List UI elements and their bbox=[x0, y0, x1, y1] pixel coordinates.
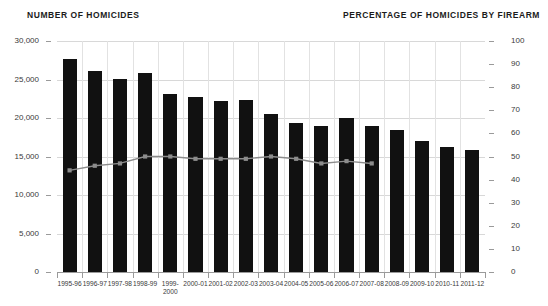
x-axis-label: 1995-96 bbox=[57, 280, 82, 288]
x-axis-tick bbox=[460, 272, 461, 278]
bar bbox=[390, 130, 404, 272]
bar bbox=[365, 126, 379, 272]
y-axis-right-tick bbox=[489, 272, 494, 273]
category-separator bbox=[183, 41, 184, 272]
bar bbox=[113, 79, 127, 272]
x-axis-label: 2011-12 bbox=[460, 280, 485, 288]
bar bbox=[163, 94, 177, 272]
y-axis-left-tick bbox=[46, 272, 51, 273]
category-separator bbox=[133, 41, 134, 272]
y-axis-right-tick-label: 30 bbox=[511, 199, 520, 207]
x-axis-tick bbox=[485, 272, 486, 278]
x-axis-tick bbox=[233, 272, 234, 278]
y-axis-right-tick bbox=[489, 87, 494, 88]
category-separator bbox=[309, 41, 310, 272]
category-separator bbox=[384, 41, 385, 272]
x-axis-tick bbox=[309, 272, 310, 278]
y-axis-right-tick-label: 0 bbox=[511, 268, 515, 276]
x-axis-label: 2005-06 bbox=[309, 280, 334, 288]
y-axis-left-tick bbox=[46, 80, 51, 81]
left-axis-title: NUMBER OF HOMICIDES bbox=[27, 10, 139, 20]
x-axis-tick bbox=[183, 272, 184, 278]
x-axis-label: 1997-98 bbox=[107, 280, 132, 288]
x-axis: 1995-961996-971997-981998-991999- 200020… bbox=[57, 272, 485, 306]
x-axis-label: 2002-03 bbox=[233, 280, 258, 288]
y-axis-left-tick bbox=[46, 41, 51, 42]
y-axis-left-tick bbox=[46, 195, 51, 196]
x-axis-tick bbox=[82, 272, 83, 278]
y-axis-right-tick bbox=[489, 110, 494, 111]
bar bbox=[314, 126, 328, 272]
bar bbox=[440, 147, 454, 273]
bar bbox=[214, 101, 228, 272]
bar bbox=[415, 141, 429, 272]
y-axis-left-tick-label: 25,000 bbox=[15, 76, 39, 84]
y-axis-left: 05,00010,00015,00020,00025,00030,000 bbox=[0, 41, 51, 272]
category-separator bbox=[334, 41, 335, 272]
y-axis-right-tick bbox=[489, 180, 494, 181]
x-axis-tick bbox=[384, 272, 385, 278]
y-axis-right-tick bbox=[489, 41, 494, 42]
x-axis-tick bbox=[133, 272, 134, 278]
category-separator bbox=[233, 41, 234, 272]
y-axis-right-tick bbox=[489, 226, 494, 227]
y-axis-right-tick-label: 90 bbox=[511, 60, 520, 68]
y-axis-left-tick bbox=[46, 234, 51, 235]
x-axis-tick bbox=[258, 272, 259, 278]
y-axis-left-tick-label: 20,000 bbox=[15, 114, 39, 122]
bar bbox=[188, 97, 202, 272]
y-axis-right-tick-label: 80 bbox=[511, 83, 520, 91]
x-axis-label: 1998-99 bbox=[133, 280, 158, 288]
plot-area bbox=[57, 41, 485, 272]
x-axis-label: 1996-97 bbox=[82, 280, 107, 288]
category-separator bbox=[82, 41, 83, 272]
category-separator bbox=[435, 41, 436, 272]
category-separator bbox=[258, 41, 259, 272]
y-axis-right-tick-label: 60 bbox=[511, 129, 520, 137]
y-axis-right: 0102030405060708090100 bbox=[497, 41, 545, 272]
bar bbox=[339, 118, 353, 272]
category-separator bbox=[284, 41, 285, 272]
x-axis-label: 1999- 2000 bbox=[158, 280, 183, 295]
category-separator bbox=[158, 41, 159, 272]
y-axis-right-tick bbox=[489, 249, 494, 250]
chart-root: NUMBER OF HOMICIDES PERCENTAGE OF HOMICI… bbox=[0, 0, 548, 306]
bar bbox=[63, 59, 77, 272]
category-separator bbox=[107, 41, 108, 272]
x-axis-tick bbox=[435, 272, 436, 278]
bar bbox=[88, 71, 102, 272]
x-axis-label: 2003-04 bbox=[258, 280, 283, 288]
y-axis-right-ticks bbox=[489, 41, 495, 272]
y-axis-left-tick-label: 15,000 bbox=[15, 153, 39, 161]
category-separator bbox=[359, 41, 360, 272]
y-axis-left-tick-label: 0 bbox=[35, 268, 39, 276]
y-axis-right-tick-label: 100 bbox=[511, 37, 524, 45]
bar bbox=[239, 100, 253, 272]
category-separator bbox=[460, 41, 461, 272]
x-axis-label: 2008-09 bbox=[384, 280, 409, 288]
y-axis-left-tick bbox=[46, 157, 51, 158]
y-axis-right-tick-label: 10 bbox=[511, 245, 520, 253]
y-axis-right-tick-label: 50 bbox=[511, 153, 520, 161]
bar bbox=[289, 123, 303, 272]
x-axis-tick bbox=[158, 272, 159, 278]
x-axis-tick bbox=[409, 272, 410, 278]
bar bbox=[138, 73, 152, 272]
x-axis-tick bbox=[57, 272, 58, 278]
x-axis-label: 2000-01 bbox=[183, 280, 208, 288]
y-axis-left-tick-label: 5,000 bbox=[19, 230, 39, 238]
x-axis-tick bbox=[334, 272, 335, 278]
category-separator bbox=[409, 41, 410, 272]
x-axis-tick bbox=[208, 272, 209, 278]
y-axis-right-tick-label: 40 bbox=[511, 176, 520, 184]
x-axis-rule bbox=[57, 272, 485, 273]
x-axis-tick bbox=[107, 272, 108, 278]
category-separator bbox=[208, 41, 209, 272]
y-axis-right-tick bbox=[489, 157, 494, 158]
y-axis-left-tick bbox=[46, 118, 51, 119]
x-axis-tick bbox=[284, 272, 285, 278]
y-axis-left-tick-label: 10,000 bbox=[15, 191, 39, 199]
x-axis-label: 2001-02 bbox=[208, 280, 233, 288]
y-axis-right-tick bbox=[489, 64, 494, 65]
x-axis-label: 2009-10 bbox=[409, 280, 434, 288]
